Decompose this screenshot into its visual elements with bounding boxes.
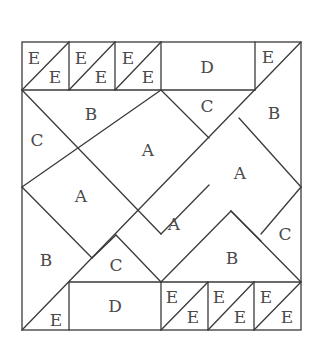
piece-label-e-top-3a: E <box>122 48 134 68</box>
piece-label-e-top-2b: E <box>95 67 107 87</box>
piece-label-e-bot-2a: E <box>213 287 225 307</box>
piece-label-d-top: D <box>200 57 214 77</box>
piece-label-a-left: A <box>74 186 88 206</box>
piece-label-b-top-right: B <box>268 103 281 123</box>
piece-label-e-bot-1b: E <box>187 307 199 327</box>
piece-label-a-right: A <box>233 163 247 183</box>
piece-label-d-bottom: D <box>108 296 122 316</box>
piece-label-e-bot-3b: E <box>281 307 293 327</box>
piece-label-e-top-2a: E <box>75 48 87 68</box>
piece-label-e-top-1a: E <box>28 48 40 68</box>
piece-label-b-bottom-right: B <box>226 248 239 268</box>
piece-label-e-top-1b: E <box>49 67 61 87</box>
piece-label-e-top-3b: E <box>142 67 154 87</box>
line-c-bottom-right-edge <box>116 235 161 282</box>
piece-label-b-top-left: B <box>85 104 98 124</box>
piece-label-c-left: C <box>30 130 43 150</box>
line-c-right-edge <box>231 211 261 241</box>
quilt-block-diagram: EEEEEEDEBCBCAAAACBCBEDEEEEEE <box>0 0 324 352</box>
piece-label-a-upper-center: A <box>141 140 155 160</box>
piece-label-e-bot-2b: E <box>234 307 246 327</box>
piece-label-c-top: C <box>200 96 213 116</box>
piece-label-e-bot-3a: E <box>260 287 272 307</box>
piece-label-c-bottom: C <box>109 255 122 275</box>
piece-label-a-lower-center: A <box>167 214 181 234</box>
line-right-upper <box>239 118 301 187</box>
piece-label-c-right: C <box>278 224 291 244</box>
piece-label-e-top-right: E <box>262 47 274 67</box>
piece-label-e-bot-1a: E <box>166 287 178 307</box>
piece-label-b-bottom-left: B <box>40 250 53 270</box>
piece-label-e-bottom-left: E <box>50 310 62 330</box>
